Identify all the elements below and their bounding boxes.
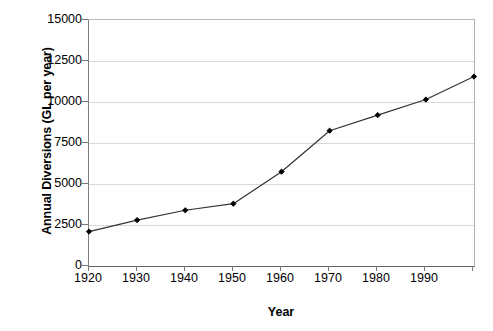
plot-area — [88, 19, 475, 267]
y-tick-label: 12500 — [8, 54, 82, 67]
data-point — [86, 229, 91, 234]
y-tick-label: 5000 — [8, 177, 82, 190]
y-tick-label: 10000 — [8, 95, 82, 108]
y-tick-label: 0 — [8, 259, 82, 272]
data-point — [183, 208, 188, 213]
x-tick-mark — [472, 266, 473, 271]
y-tick-label: 2500 — [8, 218, 82, 231]
x-tick-label: 1990 — [394, 272, 454, 285]
line-chart: Annual Diversions (GL per year) Year 150… — [0, 0, 493, 331]
data-point — [423, 97, 428, 102]
x-axis-title: Year — [88, 305, 474, 319]
series-line — [89, 77, 474, 232]
data-point — [471, 74, 476, 79]
data-point — [375, 113, 380, 118]
data-point — [135, 217, 140, 222]
y-tick-label: 15000 — [8, 13, 82, 26]
series-markers — [86, 74, 476, 234]
y-tick-label: 7500 — [8, 136, 82, 149]
data-series-svg — [89, 20, 474, 266]
